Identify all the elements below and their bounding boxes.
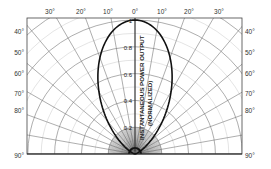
angle-label-left: 80° bbox=[14, 107, 24, 114]
angle-label-left: 40° bbox=[14, 28, 24, 35]
angle-labels-right: 40°50°60°70°80°90° bbox=[245, 28, 255, 159]
axis-title-line1: INSTANTANEOUS POWER OUTPUT bbox=[138, 35, 145, 140]
angle-label-left: 70° bbox=[14, 90, 24, 97]
grid-spoke bbox=[135, 0, 238, 154]
radial-label: 0.8 bbox=[124, 45, 133, 51]
axis-title-line2: (NORMALIZED) bbox=[146, 81, 153, 126]
angle-label-right: 60° bbox=[245, 70, 255, 77]
angle-label-top: 30° bbox=[214, 8, 224, 15]
grid-spoke bbox=[0, 4, 135, 154]
angle-label-right: 50° bbox=[245, 49, 255, 56]
angle-label-right: 40° bbox=[245, 28, 255, 35]
radial-label: 0.2 bbox=[124, 125, 133, 131]
angle-label-right: 90° bbox=[245, 152, 255, 159]
angle-label-top: 0° bbox=[132, 8, 139, 15]
angle-label-right: 80° bbox=[245, 107, 255, 114]
grid-spoke bbox=[0, 51, 135, 154]
angle-label-top: 20° bbox=[184, 8, 194, 15]
angle-labels-top: 30°20°10°0°10°20°30° bbox=[45, 8, 224, 15]
angle-label-right: 70° bbox=[245, 90, 255, 97]
grid bbox=[0, 0, 271, 169]
angle-label-left: 50° bbox=[14, 49, 24, 56]
angle-label-top: 30° bbox=[45, 8, 55, 15]
angle-label-top: 10° bbox=[157, 8, 167, 15]
radial-axis-title: INSTANTANEOUS POWER OUTPUT (NORMALIZED) bbox=[138, 35, 153, 140]
angle-label-top: 10° bbox=[103, 8, 113, 15]
angle-label-left: 60° bbox=[14, 70, 24, 77]
grid-spoke bbox=[32, 0, 135, 154]
grid-spoke bbox=[135, 51, 271, 154]
chart-frame bbox=[27, 18, 242, 154]
polar-power-chart: 30°20°10°0°10°20°30° 40°50°60°70°80°90° … bbox=[0, 0, 271, 169]
grid-spoke bbox=[135, 4, 271, 154]
radial-label: 0.4 bbox=[124, 98, 133, 104]
radial-label: 0.6 bbox=[124, 72, 133, 78]
angle-label-left: 90° bbox=[14, 152, 24, 159]
angle-labels-left: 40°50°60°70°80°90° bbox=[14, 28, 24, 159]
angle-label-top: 20° bbox=[76, 8, 86, 15]
